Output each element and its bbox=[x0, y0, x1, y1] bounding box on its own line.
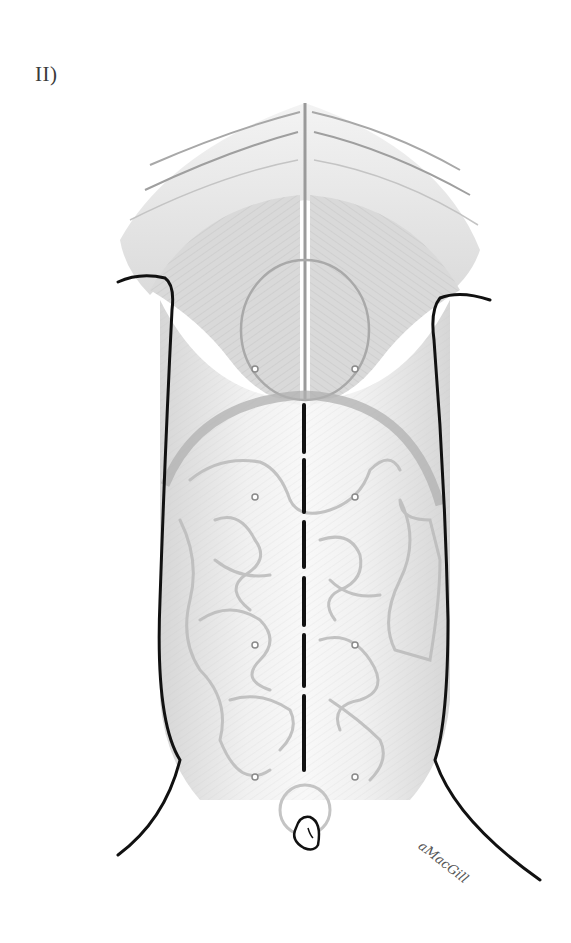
port-marker bbox=[252, 494, 258, 500]
port-marker bbox=[252, 642, 258, 648]
port-marker bbox=[352, 642, 358, 648]
anatomy-illustration bbox=[0, 0, 571, 943]
port-marker bbox=[352, 774, 358, 780]
port-marker bbox=[352, 494, 358, 500]
port-marker bbox=[352, 366, 358, 372]
port-marker bbox=[252, 774, 258, 780]
port-marker bbox=[252, 366, 258, 372]
